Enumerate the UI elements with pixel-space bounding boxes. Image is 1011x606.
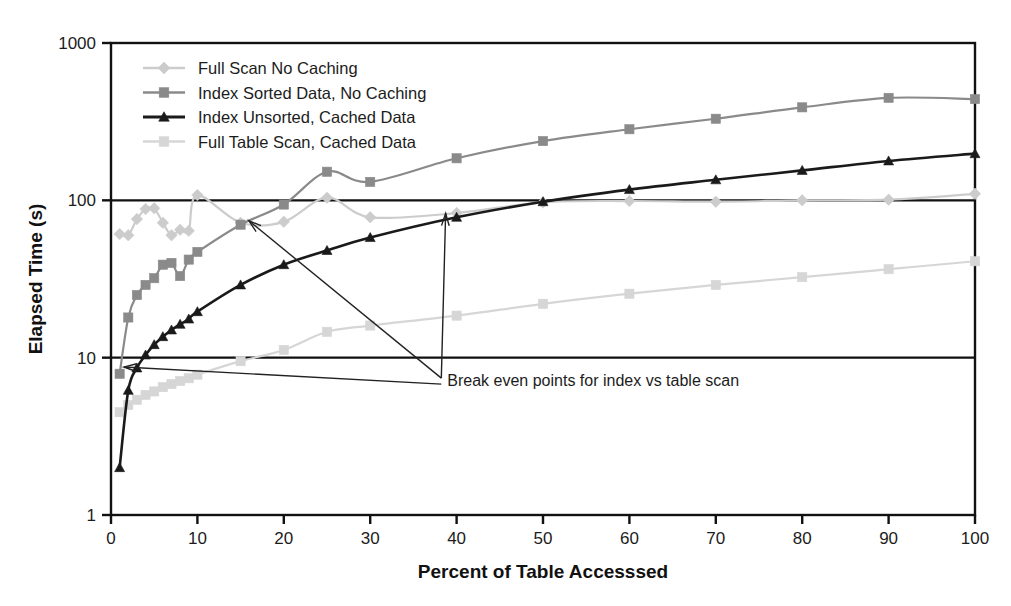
y-tick-label-100: 100 xyxy=(68,191,96,210)
data-point xyxy=(625,289,634,298)
data-point xyxy=(123,385,133,394)
data-point xyxy=(969,188,981,200)
data-point xyxy=(124,313,133,322)
x-tick-label-40: 40 xyxy=(447,529,466,548)
data-point xyxy=(711,114,720,123)
data-point xyxy=(798,103,807,112)
y-tick-label-1: 1 xyxy=(87,506,96,525)
data-point xyxy=(158,383,167,392)
legend-marker-diamond xyxy=(158,62,170,74)
series-3 xyxy=(115,257,980,417)
x-tick-label-80: 80 xyxy=(793,529,812,548)
data-point xyxy=(970,257,979,266)
x-tick-label-20: 20 xyxy=(274,529,293,548)
legend-label-0: Full Scan No Caching xyxy=(198,59,358,77)
x-tick-label-60: 60 xyxy=(620,529,639,548)
data-point xyxy=(175,319,185,328)
x-tick-label-30: 30 xyxy=(361,529,380,548)
data-point xyxy=(141,390,150,399)
data-point xyxy=(115,408,124,417)
legend-marker-square xyxy=(159,88,169,98)
y-tick-label-1000: 1000 xyxy=(58,34,96,53)
x-axis-title: Percent of Table Accesssed xyxy=(418,561,668,582)
data-point xyxy=(236,357,245,366)
series-2 xyxy=(115,149,980,472)
data-point xyxy=(322,327,331,336)
data-point xyxy=(279,200,288,209)
data-point xyxy=(710,196,722,208)
data-point xyxy=(167,258,176,267)
series-0 xyxy=(114,188,981,241)
legend-item-2[interactable]: Index Unsorted, Cached Data xyxy=(143,108,416,126)
annotation-arrow-2-line xyxy=(441,213,445,378)
data-point xyxy=(364,212,376,224)
data-point xyxy=(625,125,634,134)
data-point xyxy=(321,192,333,204)
data-point xyxy=(193,247,202,256)
data-point xyxy=(711,280,720,289)
data-point xyxy=(141,280,150,289)
legend-item-1[interactable]: Index Sorted Data, No Caching xyxy=(143,84,426,102)
x-tick-label-100: 100 xyxy=(961,529,989,548)
x-tick-label-50: 50 xyxy=(534,529,553,548)
data-point xyxy=(366,177,375,186)
data-point xyxy=(538,299,547,308)
data-point xyxy=(452,154,461,163)
x-tick-label-0: 0 xyxy=(106,529,115,548)
data-point xyxy=(322,167,331,176)
data-point xyxy=(176,271,185,280)
data-point xyxy=(883,194,895,206)
data-point xyxy=(624,195,636,207)
data-point xyxy=(278,216,290,228)
data-point xyxy=(167,379,176,388)
legend: Full Scan No CachingIndex Sorted Data, N… xyxy=(143,59,426,151)
data-point xyxy=(132,395,141,404)
data-point xyxy=(150,387,159,396)
legend-label-2: Index Unsorted, Cached Data xyxy=(198,108,416,126)
data-point xyxy=(184,255,193,264)
data-point xyxy=(279,345,288,354)
legend-item-0[interactable]: Full Scan No Caching xyxy=(143,59,358,77)
chart-figure: 11010010000102030405060708090100Percent … xyxy=(0,0,1011,606)
data-point xyxy=(884,93,893,102)
data-point xyxy=(150,274,159,283)
x-tick-label-10: 10 xyxy=(188,529,207,548)
data-point xyxy=(115,369,124,378)
data-point xyxy=(452,311,461,320)
legend-label-3: Full Table Scan, Cached Data xyxy=(198,133,417,151)
legend-item-3[interactable]: Full Table Scan, Cached Data xyxy=(143,133,417,151)
legend-label-1: Index Sorted Data, No Caching xyxy=(198,84,426,102)
data-point xyxy=(538,136,547,145)
data-point xyxy=(798,273,807,282)
y-tick-label-10: 10 xyxy=(77,349,96,368)
data-point xyxy=(158,260,167,269)
chart-canvas: 11010010000102030405060708090100Percent … xyxy=(0,0,1011,606)
legend-marker-square xyxy=(159,137,169,147)
annotation-label: Break even points for index vs table sca… xyxy=(447,372,739,389)
data-point xyxy=(970,94,979,103)
y-axis-title: Elapsed Time (s) xyxy=(25,204,46,355)
data-point xyxy=(132,290,141,299)
data-point xyxy=(176,376,185,385)
data-point xyxy=(884,265,893,274)
annotation-arrow-2 xyxy=(441,213,449,378)
x-tick-label-70: 70 xyxy=(706,529,725,548)
data-point xyxy=(796,195,808,207)
data-point xyxy=(184,374,193,383)
data-point xyxy=(123,229,135,241)
x-tick-label-90: 90 xyxy=(879,529,898,548)
data-point xyxy=(115,463,125,472)
data-point xyxy=(236,220,245,229)
series-line-3 xyxy=(120,261,975,412)
data-point xyxy=(183,225,195,237)
data-point xyxy=(157,217,169,229)
